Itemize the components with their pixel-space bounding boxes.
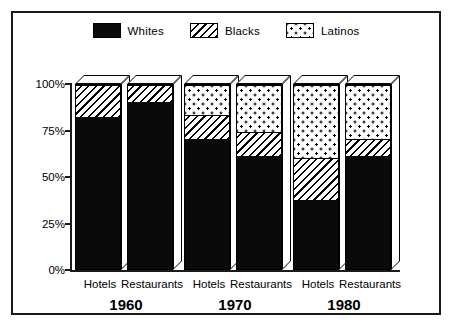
bar-side-face — [173, 75, 182, 270]
bar-segment-whites — [237, 156, 281, 270]
x-group-label-1970: 1970 — [218, 296, 251, 313]
x-group-label-1980: 1980 — [327, 296, 360, 313]
bar-1970-restaurants — [236, 75, 282, 270]
x-axis-baseline — [70, 270, 400, 272]
y-tick-label: 100% — [36, 78, 65, 90]
bar-segment-whites — [128, 102, 172, 270]
x-category-label: Restaurants — [230, 278, 292, 290]
bar-segment-whites — [346, 156, 390, 270]
bar-segment-whites — [76, 117, 120, 270]
y-tick-mark — [65, 130, 72, 132]
bar-side-face — [391, 75, 400, 270]
y-tick-mark — [65, 176, 72, 178]
x-category-label: Hotels — [193, 278, 226, 290]
bar-1980-hotels — [293, 75, 339, 270]
bar-segment-blacks — [294, 158, 338, 201]
bar-front-face — [184, 84, 230, 270]
chart-plot-area: 0%25%50%75%100% HotelsRestaurantsHotelsR… — [13, 13, 439, 313]
bar-1970-hotels — [184, 75, 230, 270]
bar-side-face — [282, 75, 291, 270]
x-category-label: Hotels — [302, 278, 335, 290]
bar-segment-blacks — [128, 85, 172, 102]
y-tick-mark — [65, 269, 72, 271]
x-group-label-1960: 1960 — [109, 296, 142, 313]
bar-1960-hotels — [75, 75, 121, 270]
y-tick-label: 25% — [42, 218, 65, 230]
bar-segment-latinos — [294, 85, 338, 158]
bar-segment-blacks — [185, 115, 229, 139]
y-tick-label: 50% — [42, 171, 65, 183]
bar-segment-blacks — [76, 85, 120, 117]
chart-figure: WhitesBlacksLatinos 0%25%50%75%100% Hote… — [11, 11, 441, 315]
y-tick-label: 0% — [48, 264, 65, 276]
y-tick-mark — [65, 83, 72, 85]
x-category-label: Restaurants — [121, 278, 183, 290]
bar-segment-blacks — [346, 139, 390, 156]
x-category-label: Restaurants — [339, 278, 401, 290]
y-axis-tick-labels: 0%25%50%75%100% — [23, 13, 65, 313]
bar-front-face — [75, 84, 121, 270]
x-category-label: Hotels — [84, 278, 117, 290]
bar-segment-whites — [185, 139, 229, 270]
bar-front-face — [345, 84, 391, 270]
bar-1980-restaurants — [345, 75, 391, 270]
y-tick-label: 75% — [42, 125, 65, 137]
bar-front-face — [127, 84, 173, 270]
bar-front-face — [236, 84, 282, 270]
bar-segment-whites — [294, 200, 338, 270]
y-tick-mark — [65, 223, 72, 225]
bar-segment-latinos — [346, 85, 390, 139]
bar-front-face — [293, 84, 339, 270]
bar-segment-blacks — [237, 132, 281, 156]
bar-segment-latinos — [185, 85, 229, 115]
bar-segment-latinos — [237, 85, 281, 132]
bar-1960-restaurants — [127, 75, 173, 270]
